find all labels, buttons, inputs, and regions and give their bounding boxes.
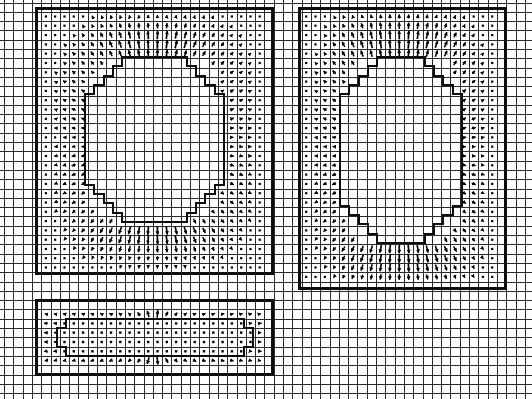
domain-boundary-layer [0, 0, 532, 399]
boundary-svg [0, 0, 532, 399]
vector-field-figure [0, 0, 532, 399]
